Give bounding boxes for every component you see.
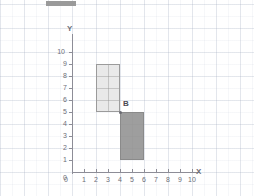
y-tick-8 [69,76,73,77]
x-tick-3 [108,169,109,173]
y-tick-1 [69,160,73,161]
rectangle-light-divider-h2 [97,88,119,89]
y-tick-label-7: 7 [55,84,67,92]
x-axis-label: X [196,168,201,176]
y-tick-7 [69,88,73,89]
x-tick-label-7: 7 [150,176,162,184]
x-tick-label-9: 9 [174,176,186,184]
rectangle-dark-divider-h1 [121,124,143,125]
x-tick-label-6: 6 [138,176,150,184]
y-tick-label-5: 5 [55,108,67,116]
rectangle-dark-divider-h2 [121,136,143,137]
point-b-marker [119,111,122,114]
rectangle-light-divider-h3 [97,100,119,101]
rectangle-dark-shape [120,112,144,160]
y-tick-label-6: 6 [55,96,67,104]
y-tick-4 [69,124,73,125]
y-tick-6 [69,100,73,101]
y-axis [72,34,73,174]
x-tick-8 [168,169,169,173]
y-tick-2 [69,148,73,149]
x-tick-2 [96,169,97,173]
x-tick-label-3: 3 [102,176,114,184]
x-tick-label-8: 8 [162,176,174,184]
y-tick-label-8: 8 [55,72,67,80]
x-tick-9 [180,169,181,173]
x-tick-label-10: 10 [186,176,198,184]
x-tick-5 [132,169,133,173]
x-tick-label-4: 4 [114,176,126,184]
x-tick-4 [120,169,121,173]
y-tick-label-3: 3 [55,132,67,140]
point-b-label: B [123,100,129,108]
rectangle-light-divider-h1 [97,76,119,77]
x-tick-label-0: 0 [60,176,72,184]
y-tick-3 [69,136,73,137]
x-tick-1 [84,169,85,173]
x-tick-label-1: 1 [78,176,90,184]
rectangle-dark-divider-h3 [121,148,143,149]
y-tick-label-9: 9 [55,60,67,68]
rectangle-light-shape [96,64,120,112]
y-tick-label-1: 1 [55,156,67,164]
x-tick-7 [156,169,157,173]
y-tick-label-4: 4 [55,120,67,128]
y-tick-5 [69,112,73,113]
y-axis-label: Y [67,25,72,33]
x-tick-label-2: 2 [90,176,102,184]
x-tick-label-5: 5 [126,176,138,184]
y-tick-label-10: 10 [53,48,65,56]
y-tick-label-2: 2 [55,144,67,152]
x-tick-6 [144,169,145,173]
y-tick-10 [69,52,73,53]
x-tick-10 [192,169,193,173]
coordinate-plane-figure: Y X 0 1 2 3 4 5 6 7 8 9 10 0 1 2 3 4 5 6… [0,0,254,196]
y-tick-9 [69,64,73,65]
